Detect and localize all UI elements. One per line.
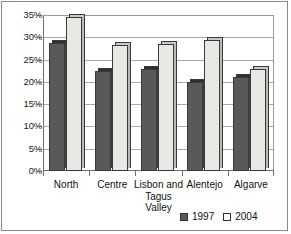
x-axis-category-label-line: Tagus: [129, 191, 187, 203]
bar-side-face: [220, 40, 223, 168]
x-axis-category-label: Algarve: [222, 179, 280, 191]
x-axis-tick-mark: [43, 171, 44, 176]
bar-1997-4: [233, 74, 249, 171]
bar-front-face: [250, 69, 266, 172]
bar-front-face: [187, 82, 203, 171]
bar-2004-2: [158, 41, 174, 171]
x-axis-category-label-line: Algarve: [222, 179, 280, 191]
y-axis-tick-mark: [37, 15, 42, 16]
bar-2004-1: [112, 42, 128, 171]
bar-side-face: [266, 69, 269, 169]
bar-2004-4: [250, 66, 266, 172]
bars-layer: [43, 15, 274, 171]
x-axis-tick-mark: [135, 171, 136, 176]
x-axis-tick-mark: [228, 171, 229, 176]
bar-1997-3: [187, 79, 203, 171]
bar-front-face: [204, 40, 220, 171]
x-axis-tick-mark: [273, 171, 274, 176]
bar-2004-0: [66, 14, 82, 171]
x-axis-tick-mark: [182, 171, 183, 176]
legend-label: 1997: [192, 212, 214, 222]
bar-1997-0: [49, 40, 65, 171]
y-axis-tick-mark: [37, 60, 42, 61]
legend-item-1997[interactable]: 1997: [180, 212, 214, 222]
chart-legend: 19972004: [180, 210, 258, 224]
y-axis-tick-mark: [37, 126, 42, 127]
bar-front-face: [112, 45, 128, 171]
bar-front-face: [158, 44, 174, 171]
bar-front-face: [66, 17, 82, 171]
bar-side-face: [82, 17, 85, 168]
legend-label: 2004: [235, 212, 257, 222]
bar-2004-3: [204, 37, 220, 171]
legend-swatch-light: [223, 213, 231, 221]
bar-side-face: [174, 44, 177, 168]
bar-side-face: [128, 45, 131, 168]
x-axis-ticks: [43, 171, 274, 177]
legend-swatch-dark: [180, 213, 188, 221]
legend-item-2004[interactable]: 2004: [223, 212, 257, 222]
x-axis-tick-mark: [89, 171, 90, 176]
bar-1997-2: [141, 66, 157, 172]
y-axis-tick-mark: [37, 104, 42, 105]
bar-1997-1: [95, 68, 111, 171]
y-axis-tick-mark: [37, 82, 42, 83]
bar-front-face: [141, 69, 157, 172]
bar-front-face: [95, 71, 111, 171]
chart-container: 35%30%25%20%15%10%5%0% NorthCentreLisbon…: [1, 1, 288, 231]
bar-front-face: [233, 77, 249, 171]
x-axis-category-label-line: Valley: [129, 202, 187, 214]
y-axis-tick-mark: [37, 171, 42, 172]
bar-front-face: [49, 43, 65, 171]
y-axis-tick-mark: [37, 149, 42, 150]
y-axis-tick-mark: [37, 37, 42, 38]
y-axis: 35%30%25%20%15%10%5%0%: [2, 2, 42, 184]
